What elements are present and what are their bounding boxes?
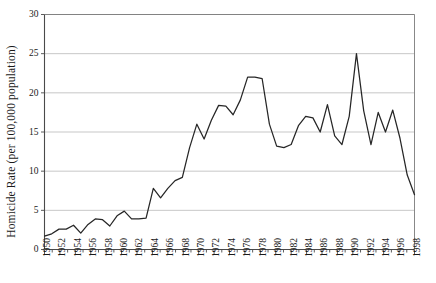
x-tick-label-1998: 1998 bbox=[412, 238, 422, 257]
y-tick-label-10: 10 bbox=[29, 166, 39, 176]
x-tick-label-1952: 1952 bbox=[57, 238, 67, 257]
plot-area-wrapper: 051015202530 195019521954195619581960196… bbox=[0, 0, 436, 283]
x-tick-label-1970: 1970 bbox=[196, 238, 206, 257]
x-tick-label-1984: 1984 bbox=[304, 238, 314, 257]
y-tick-label-30: 30 bbox=[29, 9, 39, 19]
y-tick-label-20: 20 bbox=[29, 88, 39, 98]
x-tick-label-1958: 1958 bbox=[104, 238, 114, 257]
x-tick-label-1950: 1950 bbox=[42, 238, 52, 257]
x-tick-label-1966: 1966 bbox=[165, 238, 175, 257]
x-tick-label-1956: 1956 bbox=[88, 238, 98, 257]
x-tick-label-1972: 1972 bbox=[211, 238, 221, 257]
x-tick-label-1992: 1992 bbox=[366, 238, 376, 257]
x-axis-tick-labels: 1950195219541956195819601962196419661968… bbox=[42, 238, 422, 257]
x-tick-label-1990: 1990 bbox=[350, 238, 360, 257]
y-tick-label-5: 5 bbox=[34, 205, 39, 215]
y-axis-tick-labels: 051015202530 bbox=[29, 9, 39, 254]
line-chart-svg: 051015202530 195019521954195619581960196… bbox=[0, 0, 436, 283]
x-tick-label-1986: 1986 bbox=[319, 238, 329, 257]
x-tick-label-1988: 1988 bbox=[335, 238, 345, 257]
homicide-rate-line bbox=[45, 54, 415, 237]
x-tick-label-1954: 1954 bbox=[73, 238, 83, 257]
y-tick-label-15: 15 bbox=[29, 127, 39, 137]
x-tick-label-1978: 1978 bbox=[258, 238, 268, 257]
x-tick-label-1960: 1960 bbox=[119, 238, 129, 257]
chart-figure: Homicide Rate (per 100,000 population) 0… bbox=[0, 0, 436, 283]
y-tick-label-0: 0 bbox=[34, 244, 39, 254]
x-tick-label-1994: 1994 bbox=[381, 238, 391, 257]
x-tick-label-1962: 1962 bbox=[134, 238, 144, 257]
x-tick-label-1982: 1982 bbox=[289, 238, 299, 257]
gridlines-group bbox=[45, 15, 415, 211]
x-tick-label-1964: 1964 bbox=[150, 238, 160, 257]
y-tick-label-25: 25 bbox=[29, 48, 39, 58]
x-tick-label-1980: 1980 bbox=[273, 238, 283, 257]
x-tick-label-1974: 1974 bbox=[227, 238, 237, 257]
x-tick-label-1996: 1996 bbox=[396, 238, 406, 257]
x-tick-label-1968: 1968 bbox=[181, 238, 191, 257]
x-tick-label-1976: 1976 bbox=[242, 238, 252, 257]
data-series-group bbox=[45, 54, 415, 237]
